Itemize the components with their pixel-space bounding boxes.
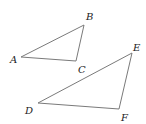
vertex-label-b: B xyxy=(85,11,93,22)
triangle-abc xyxy=(21,25,84,61)
similar-triangles-diagram: A B C D E F xyxy=(0,0,146,124)
vertex-label-a: A xyxy=(9,54,17,65)
vertex-label-e: E xyxy=(132,42,141,53)
vertex-label-d: D xyxy=(24,105,33,116)
triangle-def xyxy=(38,53,132,109)
vertex-label-c: C xyxy=(78,64,86,75)
vertex-label-f: F xyxy=(120,112,129,123)
